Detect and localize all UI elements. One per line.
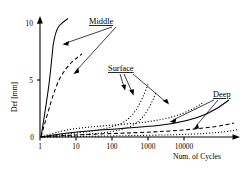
curve-group-middle — [41, 19, 82, 138]
group-label-deep: Deep — [213, 90, 231, 99]
y-tick-label-5: 5 — [29, 76, 33, 85]
x-tick-label-1000: 1000 — [141, 142, 156, 151]
leader-surface-3 — [133, 74, 166, 102]
leader-surface — [120, 74, 169, 105]
leader-deep-1 — [173, 100, 214, 120]
y-tick-label-0: 0 — [30, 133, 34, 142]
leader-deep — [170, 100, 218, 129]
leader-deep-1-arrowhead — [170, 118, 177, 123]
x-tick-label-100: 100 — [106, 142, 117, 151]
y-axis — [37, 16, 43, 137]
leader-middle-1-arrowhead — [63, 41, 70, 46]
chart-svg: 10 5 0 1 10 100 1000 10000 Def [mm] Num.… — [0, 0, 248, 175]
curve-middle-1 — [41, 19, 68, 138]
y-tick-label-10: 10 — [26, 19, 34, 28]
group-label-middle: Middle — [89, 17, 113, 26]
leader-surface-1-arrowhead — [121, 85, 126, 91]
x-axis-title: Num. of Cycles — [173, 152, 221, 161]
curve-deep-2 — [41, 123, 234, 137]
x-tick-label-10000: 10000 — [175, 142, 194, 151]
y-axis-title: Def [mm] — [10, 82, 19, 112]
leader-surface-2-arrowhead — [129, 89, 134, 95]
x-axis-arrowhead — [233, 134, 241, 140]
leader-middle-1 — [66, 27, 112, 43]
curve-surface-3 — [41, 102, 204, 137]
group-label-surface: Surface — [108, 64, 134, 73]
leader-middle-2-arrowhead — [73, 68, 79, 74]
y-axis-arrowhead — [37, 16, 43, 24]
curve-deep-1 — [41, 100, 229, 137]
x-tick-label-10: 10 — [72, 142, 80, 151]
deformation-vs-cycles-chart: 10 5 0 1 10 100 1000 10000 Def [mm] Num.… — [0, 0, 248, 175]
curve-group-deep — [41, 100, 238, 137]
x-tick-label-1: 1 — [38, 142, 42, 151]
leader-deep-2 — [196, 100, 218, 126]
leader-deep-2-arrowhead — [194, 124, 200, 129]
